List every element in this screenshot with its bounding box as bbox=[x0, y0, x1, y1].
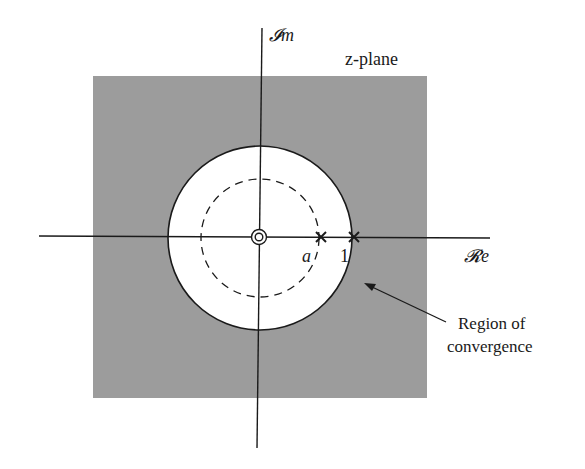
plane-label: z-plane bbox=[345, 49, 398, 69]
roc-label-line1: Region of bbox=[458, 314, 526, 333]
imag-axis-label: 𝓘m bbox=[269, 25, 294, 45]
real-axis-label: 𝓡e bbox=[464, 246, 489, 266]
pole-label-a: a bbox=[302, 246, 311, 266]
pole-label-1: 1 bbox=[340, 246, 349, 266]
zero-marker-icon bbox=[252, 230, 267, 245]
roc-label-line2: convergence bbox=[447, 337, 533, 356]
pole-zero-diagram: 𝓘m z-plane a 1 𝓡e Region of convergence bbox=[0, 0, 585, 469]
